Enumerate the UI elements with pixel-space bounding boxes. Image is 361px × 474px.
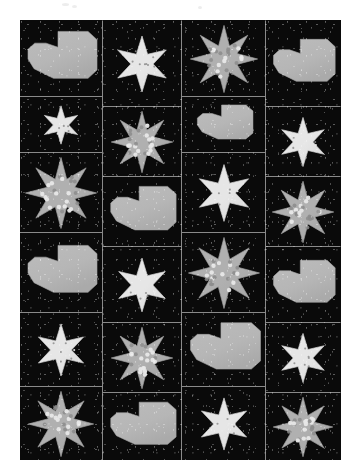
quilt-block-heart: [20, 232, 103, 312]
quilt-block-star-8: [103, 322, 182, 392]
quilt-block-star-6: [20, 312, 103, 386]
scan-smudge: [198, 6, 202, 9]
star-8-motif: [271, 180, 335, 244]
quilt-block-star-8: [20, 386, 103, 460]
column-1: [20, 20, 103, 460]
star-8-motif: [110, 326, 174, 390]
quilt-block-heart: [103, 176, 182, 246]
star-6-motif: [114, 257, 170, 313]
quilt-photograph: [0, 0, 361, 474]
heart-motif: [24, 238, 99, 307]
star-8-motif: [189, 24, 259, 94]
quilt-block-star-8: [182, 20, 266, 96]
quilt-block-heart: [266, 246, 341, 322]
star-6-motif: [277, 332, 328, 383]
quilt-block-heart: [266, 20, 341, 106]
star-8-motif: [110, 110, 174, 174]
scan-smudge: [62, 3, 69, 6]
column-4: [266, 20, 341, 460]
scan-smudge: [72, 5, 77, 8]
heart-motif: [270, 33, 337, 95]
heart-motif: [107, 180, 178, 244]
star-6-motif: [194, 163, 253, 222]
quilt-block-star-6: [20, 96, 103, 152]
star-6-motif: [34, 322, 88, 376]
star-8-motif: [24, 156, 98, 230]
star-6-motif: [41, 105, 81, 145]
quilt-block-star-8: [266, 392, 341, 460]
quilt-block-star-6: [182, 386, 266, 460]
quilt-block-star-6: [182, 152, 266, 232]
star-8-motif: [187, 236, 261, 310]
quilt-panel: [20, 20, 341, 460]
quilt-block-star-6: [266, 322, 341, 392]
column-3: [182, 20, 266, 460]
quilt-block-star-8: [20, 152, 103, 232]
star-8-motif: [272, 396, 334, 458]
heart-motif: [270, 254, 337, 316]
quilt-block-heart: [103, 392, 182, 460]
quilt-block-star-8: [266, 176, 341, 246]
heart-motif: [107, 396, 178, 458]
quilt-block-star-6: [103, 20, 182, 106]
quilt-block-heart: [20, 20, 103, 96]
quilt-block-star-6: [103, 246, 182, 322]
star-6-motif: [277, 116, 328, 167]
quilt-block-heart: [182, 312, 266, 386]
star-6-motif: [196, 396, 250, 450]
heart-motif: [24, 24, 99, 93]
quilt-block-star-8: [103, 106, 182, 176]
heart-motif: [193, 100, 253, 150]
star-8-motif: [27, 390, 95, 458]
quilt-block-star-6: [266, 106, 341, 176]
quilt-block-star-8: [182, 232, 266, 312]
heart-motif: [186, 316, 262, 384]
column-2: [103, 20, 182, 460]
quilt-block-heart: [182, 96, 266, 152]
star-6-motif: [113, 34, 171, 92]
